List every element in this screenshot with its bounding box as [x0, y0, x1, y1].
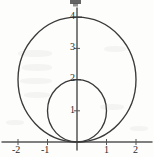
y-tick-label-3: 3: [70, 42, 75, 52]
scan-crop-artifact: [73, 4, 78, 7]
x-tick-label-neg2: -2: [12, 145, 20, 155]
x-tick-label-neg1: -1: [41, 145, 49, 155]
y-tick-label-2: 2: [70, 73, 75, 83]
plot-svg: [0, 0, 154, 157]
y-tick-label-1: 1: [70, 105, 75, 115]
scan-crop-artifact: [70, 0, 81, 4]
x-tick-label-pos1: 1: [104, 145, 109, 155]
x-tick-label-pos2: 2: [133, 145, 138, 155]
y-tick-label-4: 4: [70, 11, 75, 21]
figure-canvas: -2 -1 1 2 1 2 3 4: [0, 0, 154, 157]
